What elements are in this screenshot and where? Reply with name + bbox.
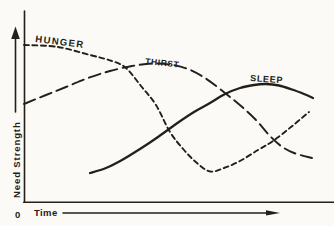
x-axis-label: Time (34, 207, 58, 218)
origin-label: 0 (15, 209, 20, 220)
right-arrow-icon (266, 210, 280, 215)
curve-label-sleep: SLEEP (250, 73, 284, 85)
curves-group: HUNGERTHIRSTSLEEP (24, 33, 313, 173)
x-axis-label-group: 0 Time (15, 207, 280, 220)
curve-sleep (90, 84, 313, 173)
curve-label-thirst: THIRST (145, 56, 180, 70)
y-axis-label-group: Need Strength (11, 27, 22, 199)
up-arrow-icon (11, 27, 20, 40)
y-axis-label: Need Strength (11, 121, 22, 198)
need-strength-figure: Need Strength 0 Time HUNGERTHIRSTSLEEP (0, 0, 334, 226)
need-strength-chart: Need Strength 0 Time HUNGERTHIRSTSLEEP (0, 0, 334, 226)
